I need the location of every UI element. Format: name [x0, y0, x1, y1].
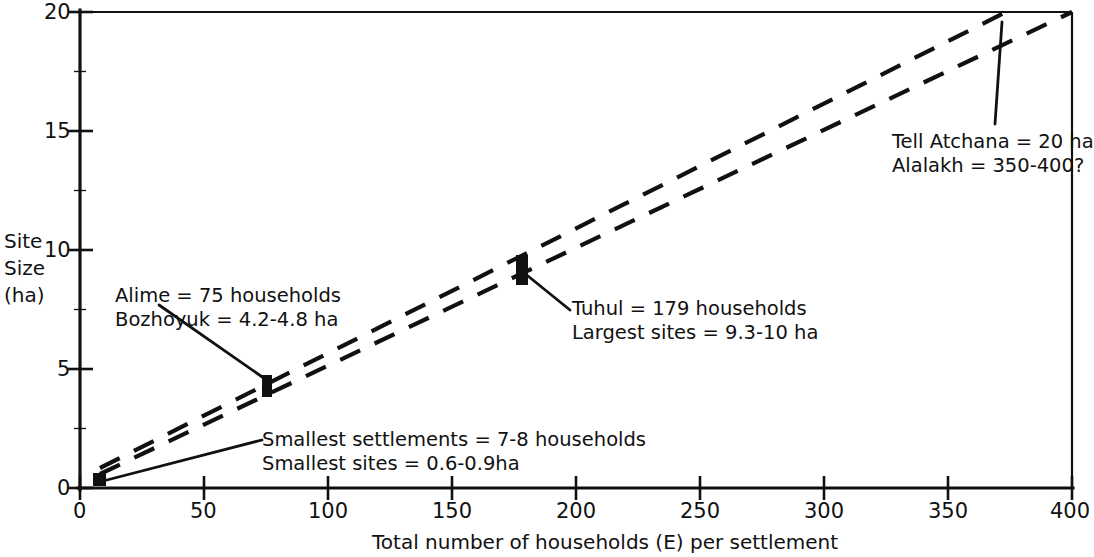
y-tick-label-0: 0 [57, 476, 70, 500]
x-tick-label-400: 400 [1050, 499, 1090, 523]
x-tick-label-0: 0 [73, 499, 86, 523]
annotation-alime-line-1: Alime = 75 households [115, 284, 341, 308]
annotation-smallest-line-1: Smallest settlements = 7-8 households [262, 428, 646, 452]
annotation-smallest-line-2: Smallest sites = 0.6-0.9ha [262, 452, 646, 476]
leader-line-atchana [995, 22, 1002, 124]
x-axis-title: Total number of households (E) per settl… [372, 530, 838, 554]
annotation-tuhul-line-2: Largest sites = 9.3-10 ha [572, 321, 818, 345]
x-tick-label-150: 150 [432, 499, 472, 523]
x-tick-label-350: 350 [928, 499, 968, 523]
x-tick-label-100: 100 [308, 499, 348, 523]
annotation-alime-line-2: Bozhoyuk = 4.2-4.8 ha [115, 308, 341, 332]
annotation-tell-atchana-line-2: Alalakh = 350-400? [892, 154, 1094, 178]
y-tick-label-15: 15 [44, 119, 71, 143]
y-axis-title: Site Size (ha) [4, 228, 45, 309]
y-axis-title-line-2: Size [4, 255, 45, 282]
y-axis-title-line-3: (ha) [4, 282, 45, 309]
y-tick-label-5: 5 [57, 357, 70, 381]
leader-line-tuhul [523, 272, 570, 310]
y-tick-label-20: 20 [44, 0, 71, 24]
x-tick-label-250: 250 [680, 499, 720, 523]
data-marker-tuhul[interactable] [516, 255, 528, 285]
annotation-alime: Alime = 75 households Bozhoyuk = 4.2-4.8… [115, 284, 341, 332]
leader-line-smallest [103, 440, 262, 481]
x-tick-label-300: 300 [804, 499, 844, 523]
annotation-smallest: Smallest settlements = 7-8 households Sm… [262, 428, 646, 476]
lower-trend-line [100, 12, 1072, 474]
annotation-tell-atchana-line-1: Tell Atchana = 20 ha [892, 130, 1094, 154]
annotation-tuhul-line-1: Tuhul = 179 households [572, 297, 818, 321]
y-tick-label-10: 10 [44, 238, 71, 262]
x-tick-label-50: 50 [190, 499, 217, 523]
annotation-tuhul: Tuhul = 179 households Largest sites = 9… [572, 297, 818, 345]
x-tick-label-200: 200 [556, 499, 596, 523]
annotation-tell-atchana: Tell Atchana = 20 ha Alalakh = 350-400? [892, 130, 1094, 178]
y-axis-title-line-1: Site [4, 228, 45, 255]
upper-trend-line [100, 12, 1006, 468]
